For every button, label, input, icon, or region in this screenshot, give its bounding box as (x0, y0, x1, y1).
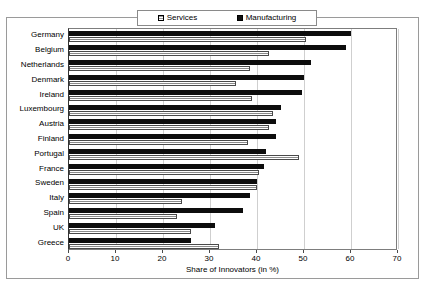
category-label-austria: Austria (0, 119, 64, 128)
bar-group (69, 208, 396, 223)
tick-mark (350, 250, 351, 253)
category-label-germany: Germany (0, 30, 64, 39)
tick-mark (256, 250, 257, 253)
bar-manufacturing (69, 238, 191, 243)
bar-manufacturing (69, 149, 266, 154)
bar-manufacturing (69, 75, 304, 80)
category-label-belgium: Belgium (0, 45, 64, 54)
bar-group (69, 179, 396, 194)
tick-label-50: 50 (299, 254, 308, 263)
bar-services (69, 214, 177, 219)
bar-group (69, 105, 396, 120)
bar-services (69, 125, 269, 130)
bar-group (69, 75, 396, 90)
tick-mark (115, 250, 116, 253)
bar-manufacturing (69, 223, 215, 228)
bar-group (69, 60, 396, 75)
bar-services (69, 51, 269, 56)
bars-layer (69, 29, 396, 249)
category-label-netherlands: Netherlands (0, 60, 64, 69)
bar-manufacturing (69, 90, 302, 95)
bar-manufacturing (69, 31, 351, 36)
bar-group (69, 31, 396, 46)
bar-manufacturing (69, 60, 311, 65)
category-label-sweden: Sweden (0, 178, 64, 187)
tick-mark (397, 250, 398, 253)
bar-services (69, 185, 257, 190)
tick-label-10: 10 (111, 254, 120, 263)
bar-group (69, 164, 396, 179)
legend-item-manufacturing: Manufacturing (237, 14, 297, 22)
bar-group (69, 193, 396, 208)
category-axis-labels: GermanyBelgiumNetherlandsDenmarkIrelandL… (0, 28, 64, 250)
category-label-france: France (0, 164, 64, 173)
tick-mark (303, 250, 304, 253)
legend-label-manufacturing: Manufacturing (246, 14, 297, 22)
chart-legend: Services Manufacturing (137, 10, 317, 26)
category-label-finland: Finland (0, 134, 64, 143)
chart-container: Services Manufacturing GermanyBelgiumNet… (0, 0, 426, 290)
category-label-spain: Spain (0, 208, 64, 217)
category-label-luxembourg: Luxembourg (0, 104, 64, 113)
bar-services (69, 170, 259, 175)
category-label-portugal: Portugal (0, 149, 64, 158)
bar-manufacturing (69, 208, 243, 213)
tick-mark (162, 250, 163, 253)
tick-mark (68, 250, 69, 253)
bar-services (69, 140, 248, 145)
manufacturing-swatch-icon (237, 15, 243, 21)
bar-manufacturing (69, 164, 264, 169)
bar-group (69, 223, 396, 238)
tick-label-40: 40 (252, 254, 261, 263)
bar-services (69, 81, 236, 86)
bar-group (69, 45, 396, 60)
tick-label-30: 30 (205, 254, 214, 263)
bar-services (69, 199, 182, 204)
bar-group (69, 134, 396, 149)
value-axis-ticks: 010203040506070 (68, 250, 397, 264)
services-swatch-icon (158, 15, 164, 21)
category-label-uk: UK (0, 223, 64, 232)
tick-label-60: 60 (346, 254, 355, 263)
bar-group (69, 119, 396, 134)
plot-area (68, 28, 397, 250)
bar-manufacturing (69, 119, 276, 124)
bar-services (69, 229, 191, 234)
bar-group (69, 149, 396, 164)
bar-services (69, 244, 219, 249)
category-label-greece: Greece (0, 238, 64, 247)
bar-services (69, 96, 252, 101)
category-label-denmark: Denmark (0, 75, 64, 84)
tick-mark (209, 250, 210, 253)
legend-item-services: Services (158, 14, 198, 22)
x-axis-title: Share of Innovators (in %) (68, 265, 397, 275)
bar-manufacturing (69, 179, 257, 184)
bar-manufacturing (69, 134, 276, 139)
bar-services (69, 155, 299, 160)
bar-services (69, 66, 250, 71)
category-label-ireland: Ireland (0, 90, 64, 99)
bar-manufacturing (69, 105, 281, 110)
tick-label-20: 20 (158, 254, 167, 263)
bar-manufacturing (69, 193, 250, 198)
category-label-italy: Italy (0, 193, 64, 202)
tick-label-0: 0 (66, 254, 70, 263)
tick-label-70: 70 (393, 254, 402, 263)
bar-services (69, 37, 306, 42)
legend-label-services: Services (167, 14, 198, 22)
bar-manufacturing (69, 45, 346, 50)
bar-services (69, 111, 273, 116)
bar-group (69, 90, 396, 105)
